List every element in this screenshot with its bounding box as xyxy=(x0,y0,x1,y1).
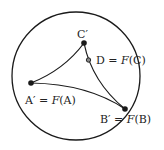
label-a-prime: A′ = F(A) xyxy=(24,94,76,107)
edge-c-b xyxy=(84,43,125,109)
point-a-prime xyxy=(28,80,34,86)
label-c-prime: C′ xyxy=(77,28,88,41)
point-d xyxy=(86,58,90,62)
edge-a-c xyxy=(31,43,84,83)
point-c-prime xyxy=(81,40,87,46)
label-d: D = F(C) xyxy=(96,54,146,67)
point-b-prime xyxy=(122,106,128,112)
label-b-prime: B′ = F(B) xyxy=(100,113,151,126)
hyperbolic-disk-diagram: C′ D = F(C) A′ = F(A) B′ = F(B) xyxy=(0,0,164,150)
